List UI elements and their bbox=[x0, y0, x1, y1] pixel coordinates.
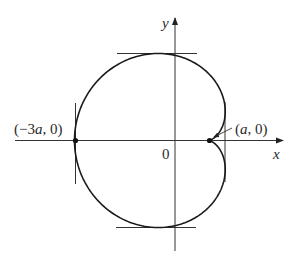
leftmost-point-label: (−3a, 0) bbox=[14, 121, 62, 138]
y-axis-label: y bbox=[160, 15, 169, 31]
leftmost-point-dot bbox=[73, 138, 78, 143]
cusp-point-dot bbox=[207, 138, 212, 143]
cusp-point-label: (a, 0) bbox=[235, 121, 268, 138]
x-axis-label: x bbox=[272, 146, 280, 162]
cardioid-diagram: y x 0 (−3a, 0) (a, 0) bbox=[0, 0, 291, 266]
origin-label: 0 bbox=[162, 146, 170, 162]
cusp-pointer-arrow bbox=[214, 128, 232, 137]
